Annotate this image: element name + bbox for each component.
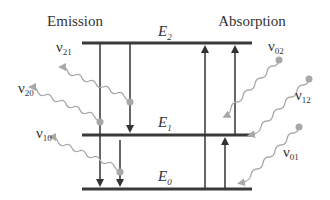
svg-text:ν02: ν02 (268, 38, 284, 56)
svg-text:E0: E0 (157, 168, 172, 187)
svg-text:ν01: ν01 (283, 144, 299, 162)
svg-text:E2: E2 (157, 23, 172, 42)
photon-label-nu20: ν20 (18, 80, 34, 98)
emission-title: Emission (47, 13, 103, 29)
energy-level-diagram: Emission Absorption E2 E1 E0 (0, 0, 330, 200)
level-label-e1: E1 (157, 114, 172, 133)
photon-nu20-wave (32, 87, 104, 126)
photon-nu12-wave (251, 76, 313, 136)
photon-label-nu21: ν21 (56, 39, 72, 57)
svg-text:ν21: ν21 (56, 39, 72, 57)
photon-label-nu02: ν02 (268, 38, 284, 56)
level-label-e2: E2 (157, 23, 172, 42)
photon-nu21-wave (62, 67, 134, 106)
svg-text:E1: E1 (157, 114, 172, 133)
photon-nu10-wave (52, 137, 124, 176)
svg-text:ν10: ν10 (36, 125, 52, 143)
svg-text:ν12: ν12 (295, 87, 311, 105)
diagram-canvas: Emission Absorption E2 E1 E0 (0, 0, 330, 200)
svg-text:ν20: ν20 (18, 80, 34, 98)
photon-label-nu01: ν01 (283, 144, 299, 162)
photon-label-nu10: ν10 (36, 125, 52, 143)
level-label-e0: E0 (157, 168, 172, 187)
photon-label-nu12: ν12 (295, 87, 311, 105)
absorption-title: Absorption (218, 13, 286, 29)
